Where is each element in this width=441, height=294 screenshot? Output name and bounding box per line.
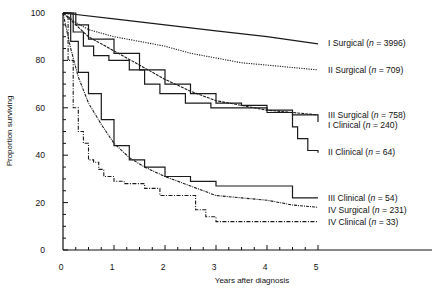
y-tick-label: 60: [36, 103, 46, 113]
y-tick-label: 100: [31, 8, 45, 18]
x-tick-label: 0: [59, 262, 64, 272]
survival-chart: 020406080100012345 I Surgical (n = 3996)…: [0, 0, 441, 294]
legend-label-ii-clinical: II Clinical (n = 64): [328, 147, 395, 157]
x-tick-label: 3: [212, 262, 217, 272]
legend-label-iii-clinical: III Clinical (n = 54): [328, 193, 398, 203]
x-axis-title: Years after diagnosis: [215, 276, 289, 285]
legend-label-ii-surgical: II Surgical (n = 709): [328, 65, 403, 75]
survival-curves: [63, 13, 318, 222]
x-tick-label: 4: [263, 262, 268, 272]
legend-label-iii-surgical: III Surgical (n = 758): [328, 110, 406, 120]
y-axis-title: Proportion surviving: [5, 96, 14, 167]
x-tick-label: 2: [161, 262, 166, 272]
x-tick-label: 5: [314, 262, 319, 272]
legend-label-i-clinical: I Clinical (n = 240): [328, 120, 398, 130]
inline-legend: I Surgical (n = 3996)II Surgical (n = 70…: [328, 38, 407, 227]
y-tick-label: 40: [36, 150, 46, 160]
legend-label-iv-surgical: IV Surgical (n = 231): [328, 205, 407, 215]
curve-iii-clinical: [63, 13, 318, 198]
curve-ii-clinical: [63, 13, 318, 153]
x-tick-label: 1: [110, 262, 115, 272]
y-tick-label: 20: [36, 198, 46, 208]
legend-label-iv-clinical: IV Clinical (n = 33): [328, 217, 399, 227]
y-tick-label: 0: [40, 245, 45, 255]
legend-label-i-surgical: I Surgical (n = 3996): [328, 38, 406, 48]
curve-ii-surgical: [63, 13, 318, 70]
y-tick-label: 80: [36, 55, 46, 65]
